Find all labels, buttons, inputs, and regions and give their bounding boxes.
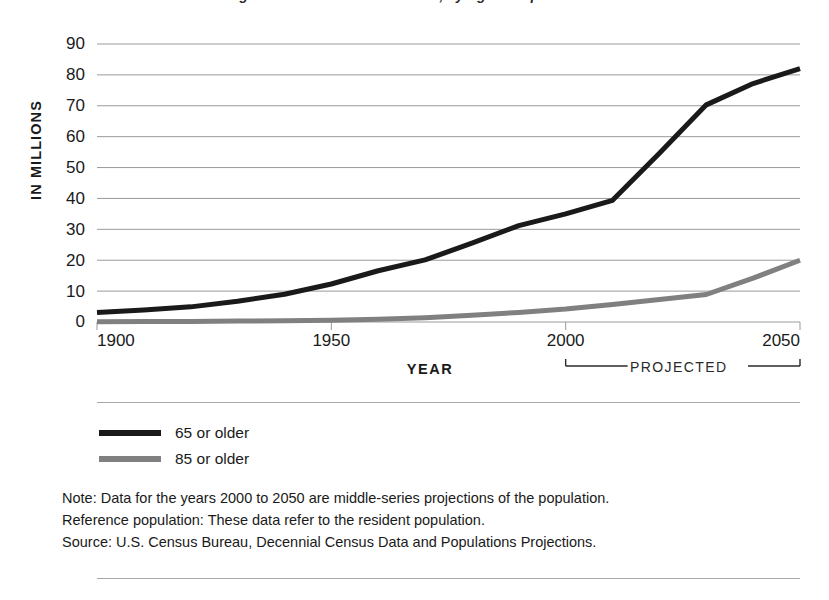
y-tick-label: 20 [66, 251, 85, 270]
y-tick-label: 0 [76, 312, 85, 331]
legend-label: 65 or older [175, 425, 249, 441]
y-tick-label: 30 [66, 220, 85, 239]
notes-block: Note: Data for the years 2000 to 2050 ar… [62, 487, 802, 553]
y-tick-label: 90 [66, 34, 85, 53]
figure-root: Number of Persons Age 65 or Older and 85… [0, 0, 829, 600]
divider-bottom [97, 578, 800, 579]
y-axis-title: IN MILLIONS [28, 70, 44, 230]
plot-area: 0102030405060708090 1900195020002050 IN … [0, 0, 829, 400]
y-tick-label: 80 [66, 65, 85, 84]
y-tick-label: 60 [66, 127, 85, 146]
note-line: Note: Data for the years 2000 to 2050 ar… [62, 487, 802, 509]
x-tick-label: 1900 [97, 331, 135, 350]
y-tick-label: 50 [66, 158, 85, 177]
x-tick-label: 1950 [312, 331, 350, 350]
legend-label: 85 or older [175, 451, 249, 467]
x-tick-label: 2000 [547, 331, 585, 350]
projected-label: PROJECTED [630, 359, 727, 375]
x-tick-label: 2050 [762, 331, 800, 350]
chart-legend: 65 or older85 or older [99, 420, 519, 472]
legend-swatch [99, 430, 161, 436]
divider-above-legend [97, 402, 800, 403]
data-series-group [97, 69, 800, 322]
y-tick-label: 70 [66, 96, 85, 115]
y-tick-label: 40 [66, 189, 85, 208]
legend-item: 85 or older [99, 446, 519, 472]
y-tick-label: 10 [66, 282, 85, 301]
x-axis-title: YEAR [380, 361, 480, 377]
x-tick-labels-group: 1900195020002050 [97, 331, 800, 350]
series-line-65-or-older [97, 69, 800, 313]
legend-item: 65 or older [99, 420, 519, 446]
chart-svg: 0102030405060708090 1900195020002050 [0, 0, 829, 400]
legend-swatch [99, 456, 161, 462]
note-line: Reference population: These data refer t… [62, 509, 802, 531]
note-line: Source: U.S. Census Bureau, Decennial Ce… [62, 531, 802, 553]
y-tick-labels-group: 0102030405060708090 [66, 34, 85, 331]
